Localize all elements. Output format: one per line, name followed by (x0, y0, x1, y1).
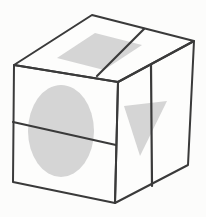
cube-diagram (0, 0, 206, 217)
right-face-divider-line (151, 65, 152, 186)
front-face-ellipse-shape (28, 85, 94, 177)
cube-diagram-container (0, 0, 206, 217)
